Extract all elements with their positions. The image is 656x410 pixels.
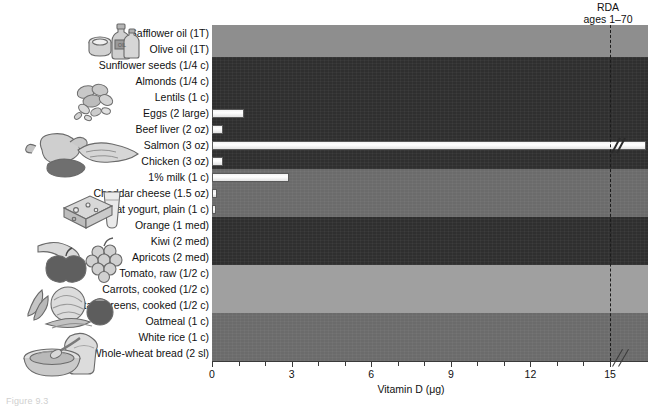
x-axis-minor-tick <box>318 361 319 366</box>
x-axis-minor-tick <box>583 361 584 366</box>
meat-fish-illustration <box>20 128 140 178</box>
x-axis-title: Vitamin D (μg) <box>212 383 610 395</box>
x-axis-minor-tick <box>265 361 266 366</box>
vitamin-d-bar-chart-figure: RDA ages 1–70 Safflower oil (1T)Olive oi… <box>0 0 656 410</box>
x-axis-line <box>212 361 610 362</box>
x-axis-minor-tick <box>398 361 399 366</box>
oils-illustration: OIL <box>88 22 144 60</box>
x-axis-major-tick <box>212 361 213 367</box>
x-axis-tick-label: 12 <box>525 368 537 380</box>
food-group-band-vegetables <box>212 265 648 313</box>
x-axis-minor-tick <box>477 361 478 366</box>
x-axis-tick-label: 9 <box>448 368 454 380</box>
bar <box>212 189 217 198</box>
figure-caption: Figure 9.3 <box>6 396 49 406</box>
x-axis-minor-tick <box>345 361 346 366</box>
x-axis-major-tick <box>292 361 293 367</box>
x-axis-major-tick <box>451 361 452 367</box>
food-group-band-protein <box>212 57 648 169</box>
rda-label-line1: RDA <box>560 2 656 14</box>
bar <box>212 205 216 214</box>
bar <box>212 157 223 166</box>
bar <box>212 173 289 182</box>
rda-label-line2: ages 1–70 <box>560 14 656 26</box>
rda-reference-line <box>610 25 611 361</box>
rda-annotation: RDA ages 1–70 <box>560 2 656 25</box>
bar <box>212 141 646 150</box>
fruits-illustration <box>32 236 132 284</box>
x-axis-tick-label: 0 <box>209 368 215 380</box>
plot-area <box>212 25 648 361</box>
x-axis-major-tick <box>371 361 372 367</box>
food-group-band-oils <box>212 25 648 57</box>
x-axis-minor-tick <box>239 361 240 366</box>
category-label: Sunflower seeds (1/4 c) <box>2 60 212 71</box>
x-axis-minor-tick <box>504 361 505 366</box>
bar <box>212 125 223 134</box>
x-axis-major-tick <box>530 361 531 367</box>
axis-break-mark <box>614 350 636 366</box>
x-axis-tick-label: 6 <box>368 368 374 380</box>
nuts-seeds-illustration <box>70 82 128 122</box>
grains-illustration <box>18 330 122 382</box>
vegetables-illustration <box>24 282 132 332</box>
dairy-illustration <box>60 188 130 230</box>
food-group-band-grains <box>212 313 648 361</box>
x-axis-tick-label: 3 <box>289 368 295 380</box>
bar <box>212 109 244 118</box>
x-axis-tick-label: 15 <box>604 368 616 380</box>
food-group-band-fruits <box>212 217 648 265</box>
x-axis-minor-tick <box>557 361 558 366</box>
svg-text:OIL: OIL <box>118 42 126 48</box>
x-axis-minor-tick <box>424 361 425 366</box>
